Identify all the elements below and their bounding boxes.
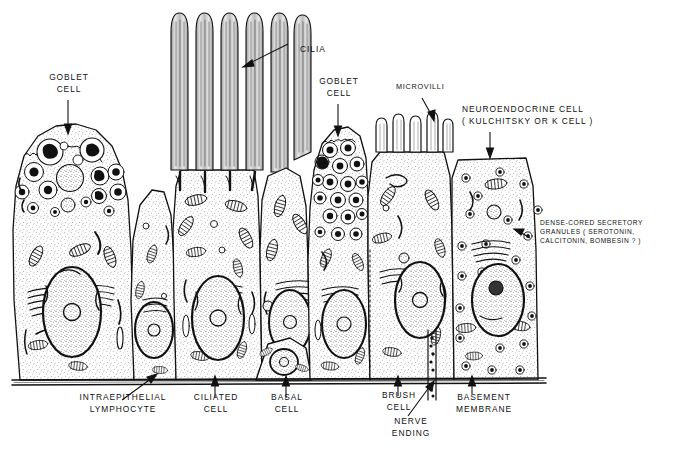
cilium (246, 13, 263, 170)
microvillus (410, 116, 421, 152)
microvillus (393, 114, 404, 152)
label-goblet-cell-left: GOBLET CELL (24, 72, 114, 95)
label-neuroendocrine-cell: NEUROENDOCRINE CELL ( KULCHITSKY OR K CE… (462, 104, 593, 127)
cilium (271, 13, 288, 172)
goblet-cell-right (308, 127, 370, 380)
label-intraepithelial-lymphocyte: INTRAEPITHELIAL LYMPHOCYTE (48, 392, 198, 415)
basement-membrane (12, 378, 546, 385)
label-ciliated-cell: CILIATED CELL (178, 392, 254, 415)
label-brush-cell: BRUSH CELL (362, 390, 436, 413)
cilium (171, 13, 188, 170)
label-basement-membrane: BASEMENT MEMBRANE (436, 392, 532, 415)
cilia-group (171, 13, 311, 172)
microvillus (376, 118, 387, 152)
label-basal-cell: BASAL CELL (250, 392, 324, 415)
label-cilia: CILIA (300, 44, 326, 56)
label-microvilli: MICROVILLI (396, 82, 444, 92)
microvillus (443, 119, 453, 152)
basal-cell-column (256, 168, 316, 380)
goblet-cell-left (13, 124, 134, 380)
respiratory-epithelium-figure: GOBLET CELL CILIA GOBLET CELL MICROVILLI… (0, 0, 673, 454)
neuroendocrine-cell (452, 158, 542, 380)
intraepithelial-lymphocyte (131, 190, 176, 380)
label-nerve-ending: NERVE ENDING (374, 416, 448, 439)
label-dense-cored-granules: DENSE-CORED SECRETORY GRANULES ( SEROTON… (540, 218, 643, 246)
cilium (196, 13, 213, 170)
label-goblet-cell-right: GOBLET CELL (294, 76, 384, 99)
brush-cell (368, 112, 454, 380)
microvilli-group (376, 112, 453, 152)
cilium (221, 13, 238, 170)
